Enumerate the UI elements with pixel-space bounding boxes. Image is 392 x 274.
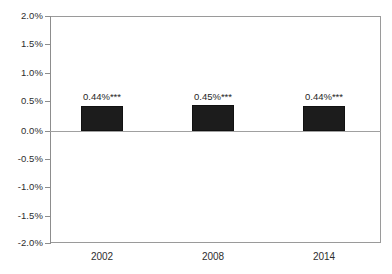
bar-2002 (81, 106, 123, 131)
y-tick-label: 2.0% (1, 11, 43, 21)
y-tick-label-group-3: 0.5% (0, 96, 43, 106)
bar-value-label: 0.44%*** (62, 92, 142, 102)
y-tick-label-group-2: 1.0% (0, 68, 43, 78)
y-tick-label: 1.0% (1, 68, 43, 78)
y-tick-label: -1.5% (1, 211, 43, 221)
zero-baseline (50, 131, 381, 132)
y-tick-label: 0.5% (1, 96, 43, 106)
y-tick-label-group-1: 1.5% (0, 39, 43, 49)
y-tick-label-group-4: 0.0% (0, 126, 43, 136)
y-axis-line (50, 16, 51, 244)
x-tick-label-2014: 2014 (284, 252, 364, 262)
bar-value-label: 0.44%*** (284, 92, 364, 102)
y-tick-label: -1.0% (1, 182, 43, 192)
y-tick-label-group-6: -1.0% (0, 182, 43, 192)
bar-2014 (303, 106, 345, 131)
x-tick-label-2008: 2008 (173, 252, 253, 262)
bar-2008 (192, 105, 234, 131)
y-tick-label: 0.0% (1, 126, 43, 136)
y-tick-label: -0.5% (1, 154, 43, 164)
bar-value-label: 0.45%*** (173, 92, 253, 102)
y-tick-label-group-5: -0.5% (0, 154, 43, 164)
y-tick-label: -2.0% (1, 238, 43, 248)
y-tick-label-group-0: 2.0% (0, 11, 43, 21)
y-tick-label-group-7: -1.5% (0, 211, 43, 221)
bar-chart: 2.0% 1.5% 1.0% 0.5% 0.0% -0.5% -1.0% -1.… (0, 0, 392, 274)
x-tick-label-2002: 2002 (62, 252, 142, 262)
y-tick-label: 1.5% (1, 39, 43, 49)
y-tick-label-group-8: -2.0% (0, 238, 43, 248)
